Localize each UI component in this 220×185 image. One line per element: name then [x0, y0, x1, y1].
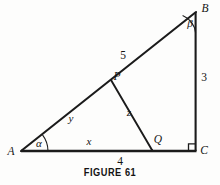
- vertex-label-p: P: [113, 71, 120, 83]
- vertex-label-q: Q: [154, 134, 162, 146]
- vertex-point-p: [110, 79, 112, 81]
- vertex-label-a: A: [7, 146, 14, 158]
- segment-label-y: y: [69, 113, 74, 124]
- segment-label-5: 5: [120, 50, 126, 62]
- segment-label-z: z: [127, 107, 131, 118]
- segment-label-x: x: [87, 136, 92, 147]
- vertex-label-c: C: [200, 145, 208, 157]
- figure-container: A B C P Q α β y x z 5 3 4 FIGURE 61: [0, 0, 220, 185]
- segment-pq: [111, 80, 152, 150]
- angle-arc-alpha-icon: [43, 135, 49, 151]
- vertex-label-b: B: [201, 3, 208, 15]
- segment-label-3: 3: [201, 72, 207, 84]
- segment-ab: [21, 12, 196, 151]
- figure-caption: FIGURE 61: [13, 166, 207, 178]
- angle-label-alpha: α: [36, 138, 42, 149]
- angle-label-beta: β: [187, 18, 192, 29]
- vertex-point-q: [151, 149, 153, 151]
